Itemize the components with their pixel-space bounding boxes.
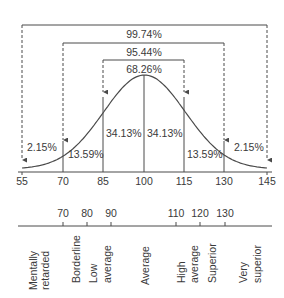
x-tick-label-85: 85 [97,175,109,187]
range-68-label: 68.26% [126,63,162,75]
band-label-85-100: 34.13% [106,127,142,139]
scale-tick-label-80: 80 [81,207,93,219]
range-99-label: 99.74% [126,28,162,40]
category-retarded: retarded [39,251,51,290]
scale-tick-label-110: 110 [168,207,185,219]
category-superior: Superior [206,243,218,283]
band-label-100-115: 34.13% [147,127,183,139]
x-tick-label-70: 70 [57,175,69,187]
scale-tick-label-90: 90 [105,207,117,219]
category-very: Very [237,261,249,283]
scale-tick-label-70: 70 [57,207,69,219]
x-tick-label-145: 145 [258,175,276,187]
band-label-115-130: 13.59% [187,148,223,160]
band-label-55-70: 2.15% [27,141,57,153]
iq-normal-distribution-chart: 99.74% 95.44% 68.26% 2.15% 13.59% 34.13%… [0,0,284,298]
x-tick-label-55: 55 [16,175,28,187]
classification-ticks [63,222,225,226]
category-high: High [175,261,187,283]
x-tick-label-100: 100 [135,175,153,187]
range-95-label: 95.44% [126,46,162,58]
category-high-average: average [188,245,200,283]
scale-tick-label-120: 120 [191,207,209,219]
category-very-superior: superior [251,245,263,283]
x-tick-label-130: 130 [215,175,233,187]
band-label-70-85: 13.59% [68,148,104,160]
band-label-130-145: 2.15% [234,141,264,153]
scale-tick-label-130: 130 [216,207,234,219]
chart-svg: 99.74% 95.44% 68.26% 2.15% 13.59% 34.13%… [0,0,284,298]
category-average: Average [139,246,151,285]
category-low: Low [87,263,99,283]
category-mentally: Mentally [27,250,39,290]
category-low-average: average [101,245,113,283]
x-tick-label-115: 115 [176,175,193,187]
category-borderline: Borderline [70,235,82,283]
